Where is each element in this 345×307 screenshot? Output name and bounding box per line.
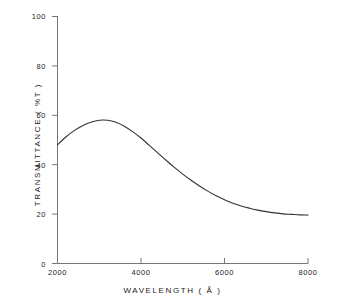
plot-background [0, 0, 345, 307]
x-tick-label-8000: 8000 [298, 268, 317, 277]
y-axis-title: TRANSMITTANCE ( %T ) [33, 50, 42, 240]
x-tick-label-4000: 4000 [131, 268, 150, 277]
chart-figure: 100 80 60 40 20 0 2000 4000 6000 8000 WA… [0, 0, 345, 307]
x-axis-title: WAVELENGTH ( Å ) [0, 286, 345, 295]
x-tick-label-2000: 2000 [48, 268, 67, 277]
transmittance-plot [0, 0, 345, 307]
x-tick-label-6000: 6000 [215, 268, 234, 277]
y-tick-label-0: 0 [12, 259, 46, 268]
y-tick-label-100: 100 [12, 12, 46, 21]
